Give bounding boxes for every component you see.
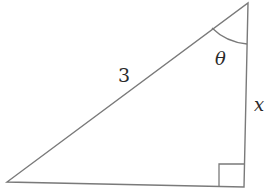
hypotenuse-label: 3	[118, 66, 130, 85]
triangle	[7, 3, 248, 187]
side-x-label: x	[254, 96, 264, 114]
triangle-figure	[0, 0, 272, 192]
angle-arc	[212, 28, 247, 44]
right-angle-marker	[219, 164, 244, 187]
angle-label: θ	[215, 50, 226, 68]
